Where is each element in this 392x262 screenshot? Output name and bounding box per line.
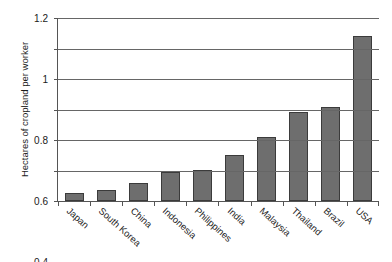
bar[interactable] [257,137,276,201]
y-axis-tick: 1.2 [54,18,58,19]
x-label-slot: Philippines [185,203,217,261]
gridline [58,110,379,111]
y-axis-tick-label: 1.2 [34,14,48,24]
x-axis-category-label: Brazil [321,205,346,229]
bar[interactable] [353,36,372,201]
x-axis-category-label: Japan [65,205,92,230]
x-axis-labels: JapanSouth KoreaChinaIndonesiaPhilippine… [57,203,378,261]
bar[interactable] [129,183,148,201]
y-axis-tick: 0 [54,201,58,202]
bar[interactable] [225,155,244,201]
y-axis-tick-label: 0.6 [34,197,48,207]
x-label-slot: India [217,203,249,261]
y-axis-tick: 0.6 [54,110,58,111]
gridline [58,18,379,19]
bar[interactable] [65,193,84,201]
x-label-slot: Japan [57,203,89,261]
bar-chart-figure: Hectares of cropland per worker 00.20.40… [0,0,392,262]
x-label-slot: China [121,203,153,261]
bar[interactable] [289,112,308,201]
y-axis-tick: 0.8 [54,79,58,80]
y-axis-tick-label: 0.4 [34,258,48,262]
x-axis-tick [378,201,379,206]
y-axis-title: Hectares of cropland per worker [19,15,30,205]
y-axis-tick-label: 1 [42,75,48,85]
y-axis-tick-label: 0.8 [34,136,48,146]
x-label-slot: Malaysia [250,203,282,261]
x-label-slot: Indonesia [153,203,185,261]
y-axis-tick: 1 [54,49,58,50]
x-axis-category-label: USA [354,205,376,226]
gridline [58,49,379,50]
x-label-slot: South Korea [89,203,121,261]
y-axis-tick: 0.2 [54,171,58,172]
bar[interactable] [193,170,212,201]
bar[interactable] [321,107,340,201]
x-label-slot: Thailand [282,203,314,261]
x-label-slot: USA [346,203,378,261]
plot-area: 00.20.40.60.811.2 [57,18,379,202]
y-axis-tick: 0.4 [54,140,58,141]
gridline [58,79,379,80]
bar[interactable] [161,172,180,201]
gridline [58,171,379,172]
x-axis-category-label: China [129,205,155,230]
gridline [58,140,379,141]
x-label-slot: Brazil [314,203,346,261]
bar[interactable] [97,190,116,201]
x-axis-category-label: India [225,205,248,227]
